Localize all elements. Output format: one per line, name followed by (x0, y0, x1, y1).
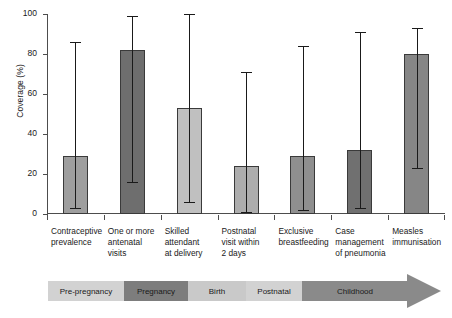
y-axis-title: Coverage (%) (15, 41, 25, 141)
error-bar-cap-lower (241, 212, 252, 213)
timeline-segment: Childhood (302, 281, 408, 301)
x-axis-category-label-line: of pneumonia (335, 248, 388, 259)
y-axis-tick-label: 100 (23, 8, 37, 18)
error-bar-line (75, 42, 76, 208)
x-axis-tick (388, 215, 389, 220)
x-axis-category-label-line: Case (335, 226, 388, 237)
error-bar-cap-upper (184, 14, 195, 15)
error-bar-line (132, 16, 133, 182)
x-axis-tick (274, 215, 275, 220)
y-axis-tick-label: 60 (28, 88, 37, 98)
y-axis-tick: 40 (43, 134, 47, 135)
error-bar-cap-upper (412, 28, 423, 29)
error-bar-cap-lower (70, 208, 81, 209)
lifecycle-timeline: Pre-pregnancyPregnancyBirthPostnatalChil… (48, 281, 408, 301)
x-axis-category-label: One or moreantenatalvisits (108, 226, 161, 259)
x-axis-category-label-line: attendant (165, 237, 218, 248)
error-bar-line (303, 46, 304, 210)
x-axis-category-label-line: antenatal (108, 237, 161, 248)
error-bar-cap-upper (70, 42, 81, 43)
x-axis-category-label-line: Measles (392, 226, 445, 237)
error-bar-cap-upper (298, 46, 309, 47)
error-bar-cap-upper (355, 32, 366, 33)
error-bar-cap-lower (298, 210, 309, 211)
y-axis-tick-label: 80 (28, 48, 37, 58)
y-axis-tick-label: 20 (28, 168, 37, 178)
timeline-segment: Pre-pregnancy (48, 281, 124, 301)
x-axis-category-label-line: One or more (108, 226, 161, 237)
coverage-bar-chart-figure: Coverage (%) 020406080100 Pre-pregnancyP… (0, 0, 452, 318)
x-axis-tick (161, 215, 162, 220)
x-axis-category-label-line: Exclusive (278, 226, 331, 237)
x-axis-category-label: Postnatalvisit within2 days (222, 226, 275, 259)
y-axis-line (47, 14, 48, 215)
error-bar-cap-upper (127, 16, 138, 17)
timeline-segment: Postnatal (246, 281, 302, 301)
x-axis-tick (218, 215, 219, 220)
error-bar-cap-lower (127, 182, 138, 183)
x-axis-category-label-line: breastfeeding (278, 237, 331, 248)
x-axis-category-label: Measlesimmunisation (392, 226, 445, 248)
x-axis-category-label: Skilledattendantat delivery (165, 226, 218, 259)
x-axis-category-label-line: at delivery (165, 248, 218, 259)
error-bar-cap-lower (355, 208, 366, 209)
x-axis-category-label-line: Contraceptive (51, 226, 104, 237)
x-axis-category-label-line: Postnatal (222, 226, 275, 237)
error-bar-line (246, 72, 247, 212)
x-axis-category-label-line: visit within (222, 237, 275, 248)
timeline-segment: Birth (188, 281, 246, 301)
y-axis-tick: 20 (43, 174, 47, 175)
x-axis-category-label-line: management (335, 237, 388, 248)
x-axis-category-label: Casemanagementof pneumonia (335, 226, 388, 259)
x-axis-category-label-line: Skilled (165, 226, 218, 237)
error-bar-line (189, 14, 190, 202)
x-axis-tick (47, 215, 48, 220)
y-axis-tick-label: 40 (28, 128, 37, 138)
timeline-segment: Pregnancy (124, 281, 188, 301)
error-bar-cap-lower (184, 202, 195, 203)
x-axis-category-label: Contraceptiveprevalence (51, 226, 104, 248)
x-axis-category-label-line: immunisation (392, 237, 445, 248)
error-bar-cap-upper (241, 72, 252, 73)
y-axis-tick-label: 0 (32, 208, 37, 218)
timeline-arrowhead-icon (407, 274, 441, 308)
x-axis-tick (444, 215, 445, 220)
plot-area: 020406080100 (47, 14, 445, 214)
x-axis-tick (331, 215, 332, 220)
error-bar-line (417, 28, 418, 168)
y-axis-tick: 100 (43, 14, 47, 15)
error-bar-cap-lower (412, 168, 423, 169)
x-axis-category-label-line: 2 days (222, 248, 275, 259)
y-axis-tick: 60 (43, 94, 47, 95)
x-axis-category-label-line: prevalence (51, 237, 104, 248)
y-axis-tick: 80 (43, 54, 47, 55)
x-axis-tick (104, 215, 105, 220)
error-bar-line (360, 32, 361, 208)
x-axis-category-label: Exclusivebreastfeeding (278, 226, 331, 248)
x-axis-category-label-line: visits (108, 248, 161, 259)
